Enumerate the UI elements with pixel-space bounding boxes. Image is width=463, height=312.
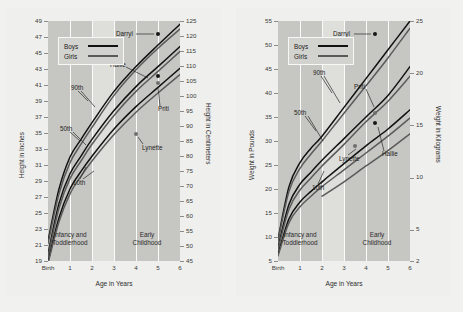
y-tick-right-2: 2 xyxy=(416,258,438,264)
y-tick-right-45: 45 xyxy=(186,258,208,264)
y-tick-left-37: 37 xyxy=(22,114,42,120)
y-tickmark-right-120 xyxy=(180,36,184,37)
y-tickmark-left-35 xyxy=(274,117,278,118)
y-tickmark-left-45 xyxy=(274,69,278,70)
band-label-early-weight-line1: Early xyxy=(370,231,385,238)
y-tickmark-right-25 xyxy=(410,21,414,22)
data-label-hallie-weight: Hallie xyxy=(382,150,398,157)
y-tickmark-left-55 xyxy=(274,21,278,22)
data-point-lynette-weight[interactable] xyxy=(353,144,357,148)
x-tick-6: 6 xyxy=(396,264,424,271)
y-tick-left-29: 29 xyxy=(22,178,42,184)
y-tick-left-25: 25 xyxy=(252,162,272,168)
band-label-infancy-line1: Infancy and xyxy=(53,231,86,238)
data-point-darryl[interactable] xyxy=(156,32,160,36)
weight-plot-area: Infancy and Toddlerhood Early Childhood … xyxy=(278,21,410,261)
y-tickmark-left-47 xyxy=(44,37,48,38)
y-tickmark-right-5 xyxy=(410,230,414,231)
y-tickmark-left-25 xyxy=(274,165,278,166)
y-tick-right-120: 120 xyxy=(186,33,208,39)
y-tick-right-125: 125 xyxy=(186,18,208,24)
band-label-infancy-weight-line2: Toddlerhood xyxy=(282,239,317,246)
y-tick-right-115: 115 xyxy=(186,48,208,54)
data-point-priti-weight[interactable] xyxy=(373,111,377,115)
band-label-infancy-weight: Infancy and Toddlerhood xyxy=(278,231,322,247)
data-label-darryl: Darryl xyxy=(116,30,133,37)
percentile-label-90th-weight: 90th xyxy=(313,69,325,76)
y-tickmark-right-55 xyxy=(180,231,184,232)
legend-label-girls: Girls xyxy=(64,53,86,60)
height-x-axis-title: Age in Years xyxy=(44,280,184,287)
y-tick-left-43: 43 xyxy=(22,66,42,72)
y-tick-left-47: 47 xyxy=(22,34,42,40)
y-tick-left-41: 41 xyxy=(22,82,42,88)
percentile-label-50th-weight: 50th xyxy=(294,109,306,116)
height-y-axis-right-title: Height in Centimeters xyxy=(205,103,212,164)
y-tick-left-5: 5 xyxy=(252,258,272,264)
y-tick-left-45: 45 xyxy=(252,66,272,72)
data-label-priti-weight: Priti xyxy=(354,83,365,90)
height-chart-panel: Infancy and Toddlerhood Early Childhood … xyxy=(6,8,221,296)
legend-row-boys: Boys xyxy=(64,41,118,51)
y-tickmark-left-29 xyxy=(44,181,48,182)
data-point-hallie-weight[interactable] xyxy=(373,121,377,125)
data-point-darryl-weight[interactable] xyxy=(373,32,377,36)
y-tickmark-left-45 xyxy=(44,53,48,54)
band-label-early-childhood-weight: Early Childhood xyxy=(344,231,410,247)
legend-label-boys-weight: Boys xyxy=(294,43,316,50)
y-tick-right-105: 105 xyxy=(186,78,208,84)
y-tick-left-19: 19 xyxy=(22,258,42,264)
y-tickmark-left-23 xyxy=(44,229,48,230)
figure-root: Infancy and Toddlerhood Early Childhood … xyxy=(0,0,463,312)
y-tick-left-49: 49 xyxy=(22,18,42,24)
y-tick-right-110: 110 xyxy=(186,63,208,69)
y-tick-left-31: 31 xyxy=(22,162,42,168)
y-tickmark-left-41 xyxy=(44,85,48,86)
legend-line-girls-weight xyxy=(318,55,348,57)
y-tickmark-right-2 xyxy=(410,261,414,262)
y-tickmark-right-10 xyxy=(410,178,414,179)
y-tick-left-35: 35 xyxy=(22,130,42,136)
band-label-early-childhood: Early Childhood xyxy=(114,231,180,247)
y-tick-left-33: 33 xyxy=(22,146,42,152)
band-label-early-weight-line2: Childhood xyxy=(363,239,392,246)
y-tickmark-left-35 xyxy=(44,133,48,134)
y-tick-left-15: 15 xyxy=(252,210,272,216)
percentile-label-90th: 90th xyxy=(71,84,83,91)
y-tick-left-20: 20 xyxy=(252,186,272,192)
y-tick-left-27: 27 xyxy=(22,194,42,200)
weight-x-axis-title: Age in Years xyxy=(274,280,414,287)
y-tick-left-21: 21 xyxy=(22,242,42,248)
y-tickmark-left-21 xyxy=(44,245,48,246)
legend-line-boys xyxy=(88,45,118,47)
y-tick-left-45: 45 xyxy=(22,50,42,56)
y-tickmark-right-50 xyxy=(180,246,184,247)
y-tick-left-50: 50 xyxy=(252,42,272,48)
y-tick-right-60: 60 xyxy=(186,213,208,219)
y-tickmark-left-5 xyxy=(274,261,278,262)
y-tickmark-right-75 xyxy=(180,171,184,172)
y-tick-left-30: 30 xyxy=(252,138,272,144)
y-tick-right-20: 20 xyxy=(416,70,438,76)
percentile-label-10th-weight: 10th xyxy=(312,184,324,191)
weight-y-axis-left-title: Weight in Pounds xyxy=(248,130,255,180)
y-tick-left-23: 23 xyxy=(22,226,42,232)
y-tickmark-right-95 xyxy=(180,111,184,112)
legend-label-boys: Boys xyxy=(64,43,86,50)
y-tick-right-25: 25 xyxy=(416,18,438,24)
y-tick-right-55: 55 xyxy=(186,228,208,234)
data-label-lynette: Lynette xyxy=(142,144,162,151)
weight-y-axis-right-title: Weight in Kilograms xyxy=(435,106,442,163)
y-tickmark-left-31 xyxy=(44,165,48,166)
band-label-early-line2: Childhood xyxy=(133,239,162,246)
data-point-hallie[interactable] xyxy=(156,74,160,78)
y-tickmark-left-40 xyxy=(274,93,278,94)
percentile-label-50th: 50th xyxy=(60,125,72,132)
data-point-priti[interactable] xyxy=(156,81,160,85)
y-tick-right-65: 65 xyxy=(186,198,208,204)
y-tickmark-right-70 xyxy=(180,186,184,187)
curve-girls-50th xyxy=(48,51,180,256)
band-label-infancy: Infancy and Toddlerhood xyxy=(48,231,92,247)
y-tickmark-right-110 xyxy=(180,66,184,67)
data-point-lynette[interactable] xyxy=(134,132,138,136)
